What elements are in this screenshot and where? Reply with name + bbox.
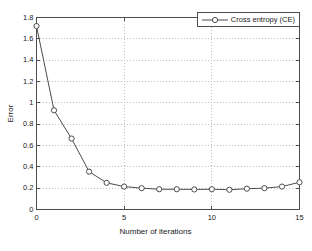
data-point-marker xyxy=(104,180,109,185)
series-line-0 xyxy=(37,26,300,190)
data-point-marker xyxy=(34,23,39,28)
y-tick-label: 1.6 xyxy=(23,35,33,43)
axis-frame xyxy=(37,18,300,210)
y-tick-label: 0 xyxy=(29,206,33,214)
data-point-marker xyxy=(122,184,127,189)
data-point-marker xyxy=(87,169,92,174)
x-tick-label: 10 xyxy=(197,214,227,222)
y-axis-label: Error xyxy=(6,83,15,143)
axis-ticks xyxy=(37,18,300,210)
y-tick-label: 0.6 xyxy=(23,142,33,150)
data-point-marker xyxy=(209,187,214,192)
x-axis-label: Number of iterations xyxy=(0,227,311,236)
y-tick-label: 1.4 xyxy=(23,56,33,64)
data-point-marker xyxy=(279,184,284,189)
data-point-marker xyxy=(51,108,56,113)
y-tick-label: 1 xyxy=(29,99,33,107)
x-tick-label: 15 xyxy=(285,214,312,222)
x-tick-label: 5 xyxy=(109,214,139,222)
legend-label: Cross entropy (CE) xyxy=(231,15,295,24)
data-point-marker xyxy=(192,187,197,192)
gridlines xyxy=(37,18,300,210)
data-point-marker xyxy=(157,187,162,192)
data-point-marker xyxy=(139,186,144,191)
y-tick-label: 1.2 xyxy=(23,78,33,86)
legend[interactable]: Cross entropy (CE) xyxy=(197,12,300,27)
legend-entry-cross-entropy[interactable]: Cross entropy (CE) xyxy=(202,15,295,25)
data-point-marker xyxy=(262,186,267,191)
data-point-marker xyxy=(174,187,179,192)
data-point-marker xyxy=(227,187,232,192)
data-point-marker xyxy=(244,186,249,191)
x-tick-label: 0 xyxy=(22,214,52,222)
data-point-marker xyxy=(297,180,302,185)
y-tick-label: 0.4 xyxy=(23,163,33,171)
y-tick-label: 0.8 xyxy=(23,120,33,128)
y-tick-label: 1.8 xyxy=(23,14,33,22)
chart-figure: Error Number of iterations Cross entropy… xyxy=(0,0,311,251)
data-point-marker xyxy=(69,136,74,141)
legend-line-marker-icon xyxy=(202,15,228,25)
y-tick-label: 0.2 xyxy=(23,184,33,192)
